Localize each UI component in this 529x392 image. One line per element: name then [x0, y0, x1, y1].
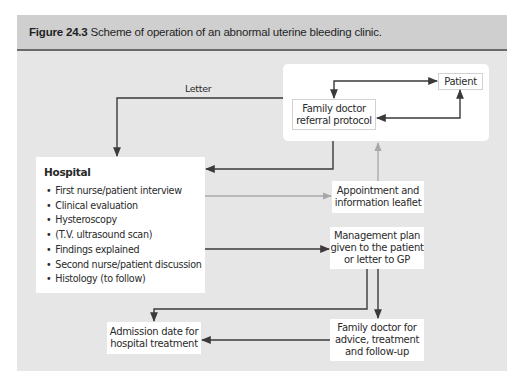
- arrow-patient-to-referral: [377, 90, 460, 118]
- arrow-management-to-admission: [154, 269, 367, 321]
- connector-arrows: [0, 0, 529, 392]
- arrow-letter-to-hospital: [117, 98, 283, 156]
- arrow-referral-to-patient: [334, 81, 437, 98]
- arrow-referral-to-hospital: [206, 141, 333, 169]
